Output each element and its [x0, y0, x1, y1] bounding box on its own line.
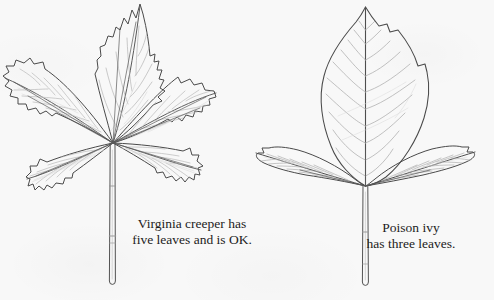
- poison-ivy-illustration: [0, 0, 494, 300]
- caption-ivy-line-1: Poison ivy: [352, 220, 470, 236]
- ivy-leaflet-left: [256, 147, 366, 186]
- caption-creeper-line-2: five leaves and is OK.: [128, 232, 256, 248]
- caption-creeper-line-1: Virginia creeper has: [128, 216, 256, 232]
- caption-ivy-line-2: has three leaves.: [352, 236, 470, 252]
- ivy-leaflet-terminal: [321, 7, 429, 186]
- illustration-page: Virginia creeper has five leaves and is …: [0, 0, 494, 300]
- caption-virginia-creeper: Virginia creeper has five leaves and is …: [128, 216, 256, 247]
- caption-poison-ivy: Poison ivy has three leaves.: [352, 220, 470, 251]
